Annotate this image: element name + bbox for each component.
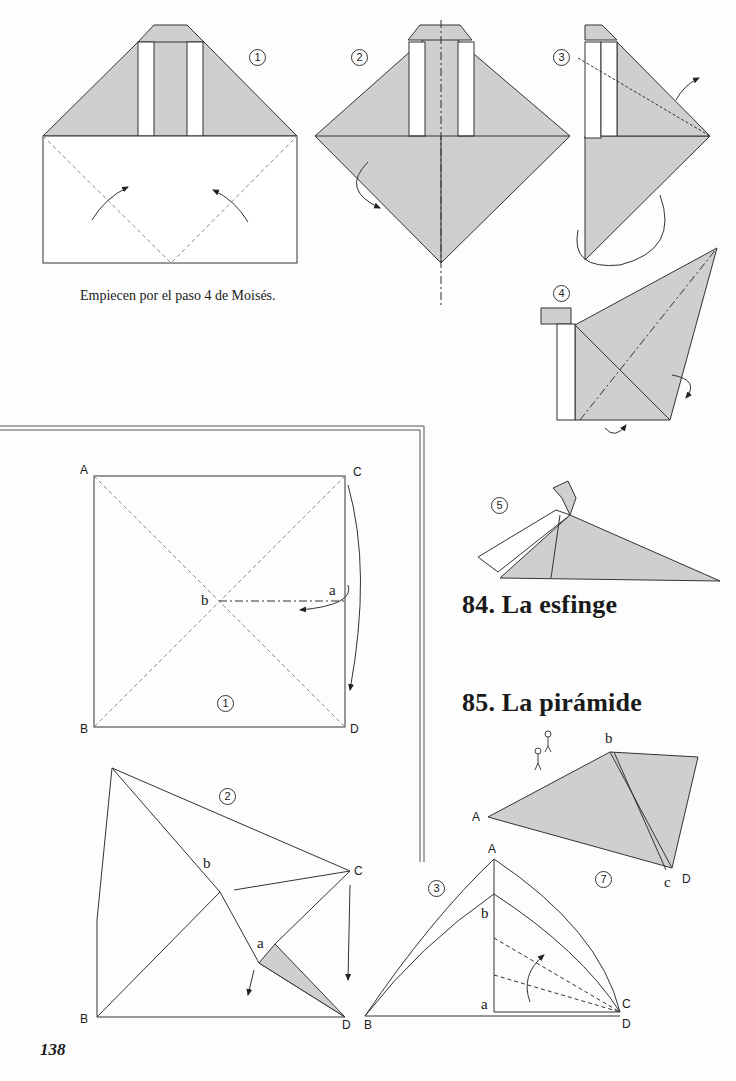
page-frame-rule xyxy=(0,426,424,862)
point-label: b xyxy=(605,730,613,747)
point-label: C xyxy=(353,465,362,479)
heading-la-esfinge: 84. La esfinge xyxy=(462,590,617,620)
point-label: D xyxy=(622,1017,631,1031)
point-label: A xyxy=(472,810,480,824)
pyramid-step3-diagram xyxy=(365,859,620,1016)
point-label: D xyxy=(342,1018,351,1032)
point-label: C xyxy=(622,997,631,1011)
point-label: A xyxy=(80,463,88,477)
point-label: a xyxy=(481,996,488,1013)
point-label: b xyxy=(481,905,489,922)
step-badge: 5 xyxy=(491,497,508,514)
heading-la-piramide: 85. La pirámide xyxy=(462,688,642,718)
point-label: c xyxy=(664,874,671,891)
sphinx-step3-diagram xyxy=(577,25,710,266)
step-badge: 2 xyxy=(219,788,236,805)
pyramid-step1-diagram xyxy=(94,476,361,727)
step-badge: 3 xyxy=(553,49,570,66)
step-badge: 1 xyxy=(249,49,266,66)
step-badge: 2 xyxy=(351,49,368,66)
point-label: b xyxy=(203,855,211,872)
point-label: D xyxy=(682,872,691,886)
point-label: a xyxy=(257,935,264,952)
page-number: 138 xyxy=(40,1040,66,1060)
diagram-canvas xyxy=(0,0,736,1081)
point-label: a xyxy=(329,582,336,599)
caption-text: Empiecen por el paso 4 de Moisés. xyxy=(80,288,276,304)
pyramid-step7-diagram xyxy=(488,731,698,870)
point-label: C xyxy=(354,864,363,878)
point-label: b xyxy=(201,592,209,609)
point-label: D xyxy=(350,722,359,736)
point-label: B xyxy=(364,1018,372,1032)
step-badge: 7 xyxy=(595,871,612,888)
sphinx-step4-diagram xyxy=(541,248,717,433)
step-badge: 1 xyxy=(217,695,234,712)
step-badge: 3 xyxy=(428,880,445,897)
sphinx-step5-diagram xyxy=(478,481,720,581)
human-figure-icons xyxy=(535,731,551,770)
step-badge: 4 xyxy=(553,285,570,302)
point-label: B xyxy=(80,1012,88,1026)
pyramid-step2-diagram xyxy=(97,768,350,1017)
point-label: A xyxy=(488,842,496,856)
point-label: B xyxy=(80,722,88,736)
